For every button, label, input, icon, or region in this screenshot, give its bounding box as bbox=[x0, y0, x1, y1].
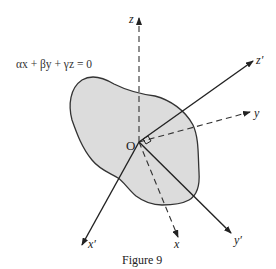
figure-caption: Figure 9 bbox=[122, 253, 162, 267]
figure-9-diagram: z z′ y x y′ x′ O αx + βy + γz = 0 Figure… bbox=[0, 0, 276, 269]
x-prime-label: x′ bbox=[87, 237, 96, 251]
z-axis-label: z bbox=[128, 12, 134, 26]
x-axis-label: x bbox=[173, 237, 180, 251]
plane-equation: αx + βy + γz = 0 bbox=[16, 58, 92, 71]
y-axis-label: y bbox=[253, 106, 260, 120]
y-prime-label: y′ bbox=[233, 233, 242, 247]
origin-label: O bbox=[126, 138, 135, 153]
z-prime-label: z′ bbox=[255, 53, 264, 67]
